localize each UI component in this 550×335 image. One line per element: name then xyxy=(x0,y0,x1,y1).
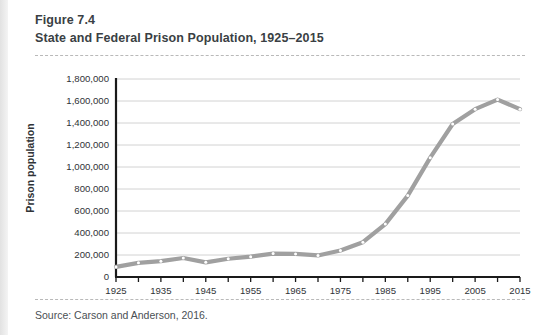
x-tick-label: 2005 xyxy=(464,285,485,296)
data-point-marker xyxy=(496,98,499,101)
data-line xyxy=(116,100,520,267)
figure-number: Figure 7.4 xyxy=(35,13,95,27)
data-point-marker xyxy=(406,194,409,197)
data-point-marker xyxy=(429,156,432,159)
data-point-marker xyxy=(159,260,162,263)
x-tick-label: 2015 xyxy=(509,285,530,296)
data-point-marker xyxy=(317,254,320,257)
data-point-marker xyxy=(474,108,477,111)
y-tick-label: 0 xyxy=(104,271,109,282)
data-point-marker xyxy=(339,249,342,252)
x-tick-label: 1955 xyxy=(240,285,261,296)
x-tick-label: 1985 xyxy=(375,285,396,296)
y-tick-label: 600,000 xyxy=(74,205,109,216)
data-point-marker xyxy=(361,241,364,244)
page-title: State and Federal Prison Population, 192… xyxy=(35,31,324,45)
x-tick-label: 1945 xyxy=(195,285,216,296)
data-point-marker xyxy=(227,257,230,260)
divider-top xyxy=(35,55,525,56)
x-tick-label: 1935 xyxy=(150,285,171,296)
x-tick-label: 1995 xyxy=(420,285,441,296)
data-point-marker xyxy=(384,223,387,226)
divider-bottom xyxy=(35,299,525,300)
chart-area: Prison population 0200,000400,000600,000… xyxy=(8,58,550,298)
y-tick-label: 800,000 xyxy=(74,183,109,194)
y-tick-label: 1,000,000 xyxy=(66,161,109,172)
y-tick-label: 1,600,000 xyxy=(66,95,109,106)
data-point-marker xyxy=(272,252,275,255)
data-point-marker xyxy=(249,255,252,258)
page-edge-shading xyxy=(0,0,8,335)
y-tick-label: 1,800,000 xyxy=(66,73,109,84)
x-tick-label: 1965 xyxy=(285,285,306,296)
figure-card: Figure 7.4 State and Federal Prison Popu… xyxy=(8,0,550,335)
data-point-marker xyxy=(115,265,118,268)
x-tick-label: 1975 xyxy=(330,285,351,296)
data-point-marker xyxy=(204,261,207,264)
data-point-marker xyxy=(519,108,522,111)
y-tick-label: 1,200,000 xyxy=(66,139,109,150)
data-point-marker xyxy=(137,261,140,264)
y-axis-title: Prison population xyxy=(24,108,36,228)
line-chart: 0200,000400,000600,000800,0001,000,0001,… xyxy=(8,58,550,298)
data-point-marker xyxy=(182,256,185,259)
data-point-marker xyxy=(451,122,454,125)
y-tick-label: 200,000 xyxy=(74,249,109,260)
y-tick-label: 400,000 xyxy=(74,227,109,238)
source-note: Source: Carson and Anderson, 2016. xyxy=(35,309,208,321)
data-point-marker xyxy=(294,252,297,255)
y-tick-label: 1,400,000 xyxy=(66,117,109,128)
x-tick-label: 1925 xyxy=(105,285,126,296)
